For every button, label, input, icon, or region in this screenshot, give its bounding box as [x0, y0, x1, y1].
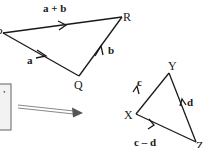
arrow-icon-zy	[180, 99, 186, 106]
label-a-plus-b: a + b	[43, 2, 66, 14]
triangle-pqr	[3, 17, 122, 76]
label-d: d	[187, 96, 193, 108]
pointer-arrow-icon	[18, 105, 83, 118]
vertex-z: Z	[196, 139, 203, 148]
label-c: c	[137, 76, 142, 88]
label-b: b	[108, 44, 114, 56]
edge-pq	[3, 33, 79, 76]
vector-diagram: ' a + b a b P R Q c d c – d X Y Z	[0, 0, 209, 148]
vertex-p: P	[0, 26, 3, 40]
callout-glyph: '	[3, 89, 6, 99]
vertex-q: Q	[74, 78, 83, 92]
label-a: a	[27, 54, 33, 66]
vertex-r: R	[123, 10, 131, 24]
vertex-x: X	[124, 108, 133, 122]
label-c-minus-d: c – d	[134, 136, 156, 148]
vertex-y: Y	[168, 59, 177, 73]
callout-box: '	[0, 84, 11, 130]
edge-pr	[3, 17, 122, 33]
